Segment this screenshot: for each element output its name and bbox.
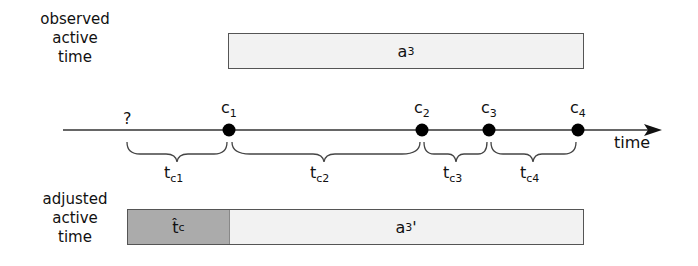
adjusted-active-time-bar: t̂c a3' — [127, 209, 584, 245]
interval-brace-tc3 — [424, 142, 487, 162]
adjusted-active-time-label: adjusted active time — [30, 190, 120, 247]
interval-brace-tc1 — [127, 142, 227, 162]
event-label-c4: c4 — [570, 98, 586, 120]
event-label-c3: c3 — [481, 98, 497, 120]
event-dot-c4 — [572, 124, 585, 137]
estimate-label-sub: c — [179, 221, 185, 234]
adjusted-bar-label-prime: ' — [412, 218, 416, 237]
interval-label-tc4: tc4 — [520, 163, 539, 185]
event-label-c1-main: c — [221, 98, 230, 117]
interval-brace-tc4 — [491, 142, 576, 162]
event-dot-c2 — [416, 124, 429, 137]
event-label-c3-main: c — [481, 98, 490, 117]
time-axis-label: time — [614, 133, 650, 152]
event-dot-c1 — [223, 124, 236, 137]
interval-label-tc4-sub: c4 — [526, 172, 539, 185]
event-label-c1-sub: 1 — [230, 107, 237, 120]
adjusted-bar-label-main: a — [395, 218, 405, 237]
unknown-start-marker: ? — [123, 109, 132, 128]
adjusted-label-line-1: adjusted — [30, 190, 120, 209]
interval-brace-tc2 — [232, 142, 420, 162]
interval-label-tc2-sub: c2 — [316, 172, 329, 185]
interval-label-tc2: tc2 — [310, 163, 329, 185]
event-label-c1: c1 — [221, 98, 237, 120]
adjusted-bar-label: a3' — [229, 210, 583, 244]
adjusted-label-line-2: active — [30, 209, 120, 228]
interval-label-tc3: tc3 — [443, 163, 462, 185]
event-label-c4-main: c — [570, 98, 579, 117]
event-dot-c3 — [483, 124, 496, 137]
event-label-c4-sub: 4 — [579, 107, 586, 120]
adjusted-label-line-3: time — [30, 228, 120, 247]
event-label-c2-sub: 2 — [423, 107, 430, 120]
event-label-c3-sub: 3 — [490, 107, 497, 120]
interval-label-tc1: tc1 — [164, 163, 183, 185]
event-label-c2: c2 — [414, 98, 430, 120]
interval-label-tc3-sub: c3 — [449, 172, 462, 185]
event-label-c2-main: c — [414, 98, 423, 117]
estimate-label: t̂c — [128, 210, 229, 244]
adjusted-bar-label-sub: 3 — [405, 221, 412, 234]
interval-label-tc1-sub: c1 — [170, 172, 183, 185]
